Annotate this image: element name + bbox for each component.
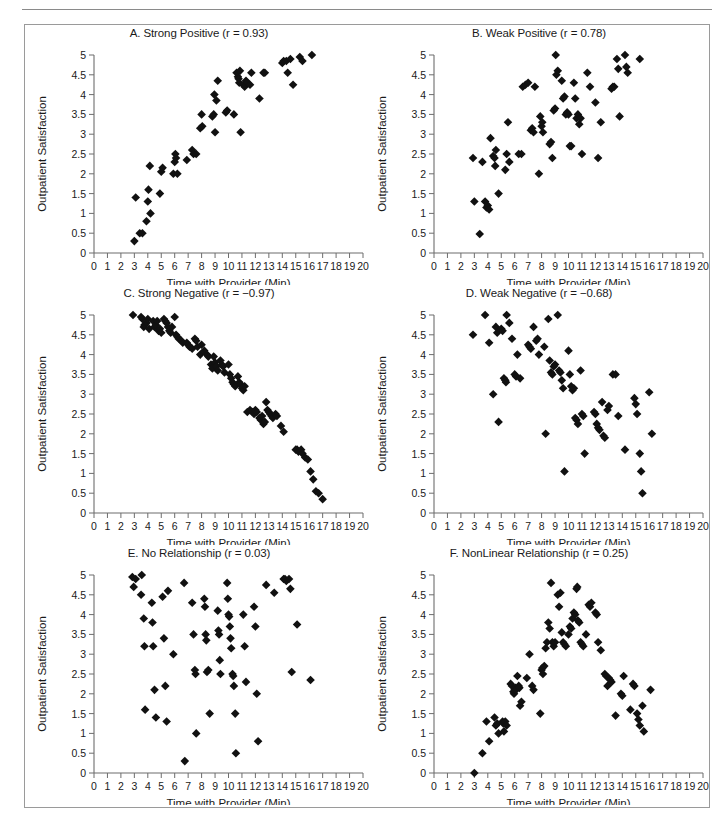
data-point [130,237,139,246]
y-axis-tick-label: 4 [420,609,426,621]
data-point [293,620,302,629]
data-point [148,598,157,607]
data-point [535,170,544,179]
x-axis-tick-label: 7 [185,780,191,792]
x-axis-tick-label: 15 [630,260,642,272]
y-axis-tick-label: 1.5 [71,188,86,200]
x-axis-tick-label: 10 [563,520,575,532]
x-axis-tick-label: 7 [185,260,191,272]
y-axis-tick-label: 5 [80,309,86,321]
data-point [621,51,630,60]
data-point [508,334,517,343]
data-point [586,82,595,91]
x-axis-tick-label: 17 [657,520,669,532]
data-point [141,705,150,714]
y-axis-tick-label: 2.5 [71,668,86,680]
x-axis-tick-label: 20 [697,520,709,532]
x-axis-tick-label: 11 [236,260,247,272]
x-axis-tick-label: 4 [145,260,151,272]
y-axis-tick-label: 4.5 [71,589,86,601]
data-point [544,315,553,324]
data-point [494,418,503,427]
data-point [162,717,171,726]
x-axis-title: Time with Provider (Min) [166,797,290,805]
x-axis-tick-label: 14 [276,260,288,272]
data-point [251,622,260,631]
x-axis-tick-label: 16 [303,520,315,532]
data-point [261,69,270,78]
x-axis-tick-label: 1 [105,780,111,792]
data-point [541,430,550,439]
y-axis-tick-label: 3.5 [411,368,426,380]
x-axis-tick-label: 8 [539,260,545,272]
x-axis-tick-label: 17 [317,520,329,532]
x-axis-tick-label: 13 [263,260,275,272]
data-point [635,55,644,64]
scatter-series [469,51,644,239]
x-axis-tick-label: 3 [471,520,477,532]
data-point [501,166,510,175]
x-axis-tick-label: 9 [552,260,558,272]
data-point [192,729,201,738]
x-axis-tick-label: 5 [158,520,164,532]
y-axis-tick-label: 2.5 [411,148,426,160]
y-axis-tick-label: 1 [420,467,426,479]
x-axis-tick-label: 19 [684,260,696,272]
y-axis-tick-label: 0 [80,767,86,779]
x-axis-tick-label: 5 [498,520,504,532]
x-axis-tick-label: 16 [643,520,655,532]
y-axis-tick-label: 1.5 [71,708,86,720]
x-axis-tick-label: 8 [199,520,205,532]
data-point [567,142,576,151]
data-point [137,591,146,600]
data-point [539,128,548,137]
x-axis-tick-label: 1 [445,260,451,272]
x-axis-tick-label: 10 [223,520,235,532]
x-axis-title: Time with Provider (Min) [506,797,630,805]
x-axis-tick-label: 9 [212,520,218,532]
x-axis-tick-label: 16 [643,780,655,792]
x-axis-tick-label: 12 [590,520,602,532]
x-axis-tick-label: 3 [131,260,137,272]
data-point [470,197,479,206]
data-point [270,589,279,598]
y-axis-tick-label: 5 [80,49,86,61]
y-axis-tick-label: 1.5 [411,448,426,460]
y-axis-tick-label: 4.5 [71,69,86,81]
data-point [525,650,534,659]
panel-a-strong-positive: A. Strong Positive (r = 0.93) 0123456789… [29,27,369,285]
data-point [489,390,498,399]
y-axis-tick-label: 2 [420,428,426,440]
data-point [309,475,318,484]
data-point [129,583,138,592]
x-axis-tick-label: 19 [684,520,696,532]
x-axis-tick-label: 6 [172,260,178,272]
data-point [502,311,511,320]
data-point [216,670,225,679]
x-axis-tick-label: 9 [212,780,218,792]
x-axis-tick-label: 1 [445,520,451,532]
x-axis-tick-label: 0 [431,780,437,792]
x-axis-tick-label: 0 [431,520,437,532]
x-axis-tick-label: 17 [317,260,329,272]
figure-root: A. Strong Positive (r = 0.93) 0123456789… [0,0,726,830]
y-axis-tick-label: 2 [420,168,426,180]
data-point [201,602,210,611]
data-point [224,594,233,603]
data-point [594,154,603,163]
x-axis-tick-label: 2 [458,260,464,272]
data-point [289,80,298,89]
y-axis-tick-label: 0 [80,247,86,259]
data-point [247,69,256,78]
data-point [283,69,292,78]
data-point [482,717,491,726]
x-axis-tick-label: 19 [344,260,356,272]
data-point [200,594,209,603]
data-point [169,650,178,659]
x-axis-tick-label: 11 [576,780,587,792]
x-axis-tick-label: 11 [236,520,247,532]
y-axis-title: Outpatient Satisfaction [376,356,388,472]
data-point [570,78,579,87]
y-axis-title: Outpatient Satisfaction [376,96,388,212]
x-axis-tick-label: 13 [603,780,615,792]
